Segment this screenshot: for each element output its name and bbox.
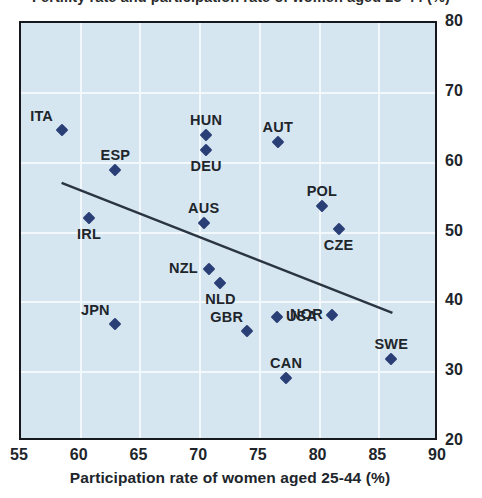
x-axis-tick-label: 65 [118,446,158,464]
data-point-label: JPN [81,302,110,318]
chart-title: Fertility rate and participation rate of… [0,0,482,5]
data-point-label: CAN [270,355,302,371]
x-axis-tick-label: 70 [178,446,218,464]
data-point-label: CZE [324,237,354,253]
data-point-label: SWE [374,336,408,352]
y-axis-tick-label: 70 [445,82,479,100]
data-point-label: IRL [77,226,101,242]
x-axis-tick-label: 55 [0,446,39,464]
plot-inner: ITAESPIRLJPNHUNDEUAUSNZLNLDAUTGBRUSACANP… [21,23,435,438]
data-point-label: POL [307,183,337,199]
data-point-label: GBR [210,309,243,325]
x-axis-label: Participation rate of women aged 25-44 (… [0,469,460,487]
data-point-label: AUT [263,119,293,135]
plot-area: ITAESPIRLJPNHUNDEUAUSNZLNLDAUTGBRUSACANP… [19,21,437,440]
data-point-label: NLD [205,291,235,307]
y-axis-tick-label: 60 [445,152,479,170]
x-axis-tick-label: 90 [417,446,457,464]
x-axis-tick-label: 60 [59,446,99,464]
scatter-chart-figure: Fertility rate and participation rate of… [0,0,482,498]
x-axis-tick-label: 85 [357,446,397,464]
data-point-label: NZL [169,260,198,276]
data-point-label: DEU [191,158,222,174]
data-point-label: AUS [188,200,219,216]
data-point-label: NOR [290,306,323,322]
x-axis-tick-label: 80 [298,446,338,464]
y-axis-tick-label: 50 [445,222,479,240]
y-axis-tick-label: 40 [445,291,479,309]
data-point-label: ITA [30,108,53,124]
data-point-label: ESP [101,147,131,163]
y-axis-tick-label: 30 [445,361,479,379]
x-axis-tick-label: 75 [238,446,278,464]
y-axis-tick-label: 80 [445,12,479,30]
data-point-label: HUN [190,112,222,128]
